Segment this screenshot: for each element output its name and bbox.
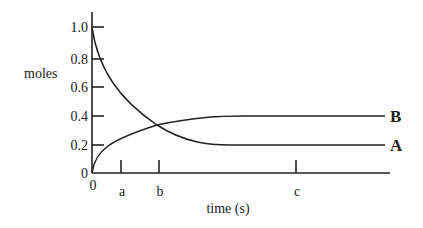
x-axis-label: time (s) [206,201,249,217]
series-a-label: A [390,136,403,155]
y-tick-label: 0.6 [71,80,89,95]
x-tick-label: a [119,184,126,199]
series-b-label: B [390,107,401,126]
y-tick-label: 0 [81,166,88,181]
series-a-curve [92,27,385,145]
y-tick-label: 0.8 [71,52,89,67]
x-tick-label: b [157,184,164,199]
y-tick-label: 1.0 [71,20,89,35]
chart: 1.0 0.8 0.6 0.4 0.2 0 moles 0 a b c time… [0,0,423,228]
y-ticks [92,27,104,145]
y-axis-label: moles [24,66,57,81]
x-tick-label: c [294,184,300,199]
y-tick-label: 0.2 [71,138,89,153]
x-ticks [121,160,296,173]
x-tick-label: 0 [90,178,97,193]
y-tick-label: 0.4 [71,109,89,124]
